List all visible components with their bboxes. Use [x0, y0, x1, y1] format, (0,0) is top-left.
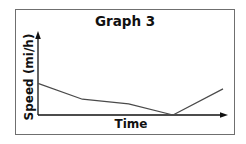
- x-axis-label: Time: [115, 117, 148, 131]
- data-line: [38, 83, 223, 115]
- y-axis-label: Speed (mi/h): [22, 34, 36, 121]
- x-axis-arrow-icon: [220, 112, 228, 118]
- y-axis-arrow-icon: [35, 31, 41, 39]
